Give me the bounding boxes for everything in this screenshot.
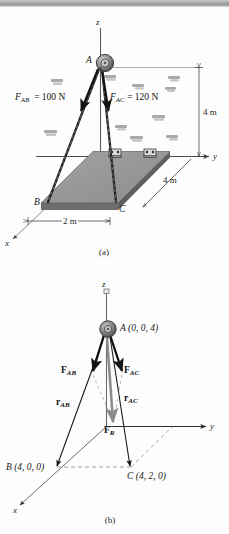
vector-F-AB [93, 335, 104, 371]
label-point-c: C [119, 204, 126, 214]
ring-at-A [96, 54, 113, 71]
force-label-ab: FAB = 100 N [14, 92, 65, 104]
vector-F-AC [110, 335, 122, 371]
label-vector-r-AB: rAB [56, 397, 70, 409]
label-vector-r-AC: rAC [124, 393, 138, 405]
dimension-slab-width-label: 2 m [63, 216, 77, 226]
label-point-a: A [85, 55, 92, 65]
dimension-height-label: 4 m [203, 107, 217, 117]
label-point-b-b: B (4, 0, 0) [6, 462, 44, 473]
force-label-ac: FAC = 120 N [109, 92, 158, 104]
label-vector-F-AC: FAC [124, 365, 139, 377]
caption-figure-b: (b) [105, 515, 116, 525]
dimension-height: 4 m [195, 68, 217, 157]
figure-page: z y x [0, 0, 229, 534]
axis-z-label: z [95, 17, 100, 27]
axis-y-label-b: y [209, 421, 214, 431]
axis-x-label: x [4, 238, 9, 248]
axis-x-label-b: x [12, 505, 17, 515]
label-point-a-b: A (0, 0, 4) [119, 323, 158, 334]
page-top-bar [0, 0, 229, 7]
axis-y-label: y [212, 151, 217, 161]
ring-at-A-b [100, 321, 116, 337]
label-point-c-b: C (4, 2, 0) [127, 471, 166, 482]
base-dashed-lines [57, 427, 172, 467]
dimension-slab-width: 2 m [28, 216, 110, 226]
axis-z: z [95, 17, 101, 157]
scan-artifacts [44, 75, 180, 142]
dimension-slab-length-label: 4 m [163, 175, 177, 185]
axis-y-b: y [107, 421, 215, 431]
figure-a: z y x [0, 7, 229, 267]
label-point-b: B [34, 197, 40, 207]
parallelogram-construction [93, 375, 122, 419]
label-vector-F-AB: FAB [61, 365, 76, 377]
force-arrow-AB [81, 69, 98, 111]
caption-figure-a: (a) [99, 247, 109, 257]
slab [41, 152, 170, 211]
figure-b: z y x [0, 267, 229, 534]
axis-z-label-b: z [101, 279, 106, 289]
